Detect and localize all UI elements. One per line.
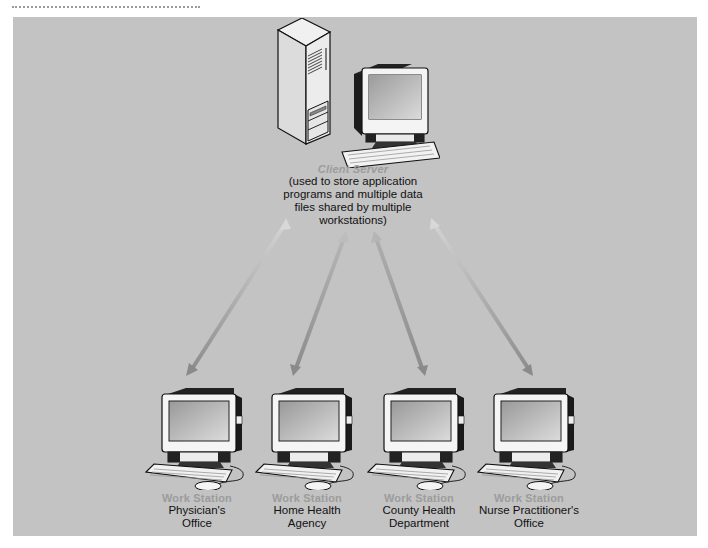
server-description-line: programs and multiple data	[255, 188, 451, 201]
client-server-node	[270, 18, 440, 168]
workstation-node-home-health-agency	[252, 386, 362, 490]
server-description-line: (used to store application	[255, 175, 451, 188]
client-server-label: Client Server	[255, 163, 451, 175]
workstation-caption-home-health-agency: Work Station Home Health Agency	[242, 492, 372, 530]
workstation-location-line: Agency	[242, 517, 372, 530]
server-tower-with-monitor-icon	[270, 18, 440, 168]
server-description-line: workstations)	[255, 214, 451, 227]
workstation-computer-icon	[252, 386, 362, 490]
arrow-to-physicians-office	[186, 218, 291, 376]
workstation-label: Work Station	[464, 492, 594, 504]
workstation-caption-nurse-practitioners-office: Work Station Nurse Practitioner's Office	[464, 492, 594, 530]
workstation-node-county-health-department	[364, 386, 474, 490]
workstation-computer-icon	[142, 386, 252, 490]
workstation-label: Work Station	[242, 492, 372, 504]
server-description-line: files shared by multiple	[255, 201, 451, 214]
workstation-location-line: Home Health	[242, 504, 372, 517]
arrow-to-home-health-agency	[290, 231, 349, 376]
client-server-caption: Client Server (used to store application…	[255, 163, 451, 227]
workstation-computer-icon	[364, 386, 474, 490]
workstation-node-nurse-practitioners-office	[474, 386, 584, 490]
arrow-to-nurse-practitioners-office	[430, 218, 533, 376]
workstation-location-line: Office	[464, 517, 594, 530]
workstation-node-physicians-office	[142, 386, 252, 490]
workstation-location-line: Nurse Practitioner's	[464, 504, 594, 517]
workstation-computer-icon	[474, 386, 584, 490]
arrow-to-county-health-department	[371, 231, 428, 376]
